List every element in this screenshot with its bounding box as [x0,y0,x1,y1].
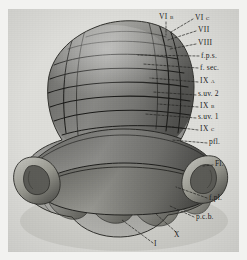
label-f-p-s: f.p.s. [201,52,217,60]
label-f-sec: f. sec. [200,64,219,72]
label-f-pl: f.pl. [209,194,222,202]
label-x: X [174,231,180,239]
label-s-uv-1: s.uv. 1 [198,113,219,121]
label-vi-b: VI b [159,13,174,21]
label-vii: VII [198,26,210,34]
label-p-fl: pfl. [209,138,220,146]
label-ix-a: IX a [200,77,215,85]
label-viii: VIII [198,39,213,47]
label-ix-c: IX c [200,125,215,133]
label-p-c-b: p.c.b. [196,213,214,221]
label-i: I [154,240,157,248]
label-s-uv-2: s.uv. 2 [198,90,219,98]
label-vi-c: VI c [195,14,210,22]
label-fl: Fl. [215,160,224,168]
label-ix-b: IX b [200,102,215,110]
figure-panel: VI bVI cVIIVIIIf.p.s.f. sec.IX as.uv. 2I… [0,0,247,260]
